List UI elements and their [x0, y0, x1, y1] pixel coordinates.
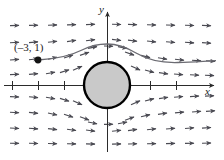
x-axis-label: x [205, 86, 210, 97]
circle-obstacle [84, 62, 130, 108]
figure-canvas: (–3, 1) y x [0, 0, 224, 160]
vector-field-diagram [0, 0, 224, 160]
y-axis-label: y [99, 4, 104, 15]
point-marker-dot [35, 57, 42, 64]
point-label: (–3, 1) [14, 42, 43, 53]
